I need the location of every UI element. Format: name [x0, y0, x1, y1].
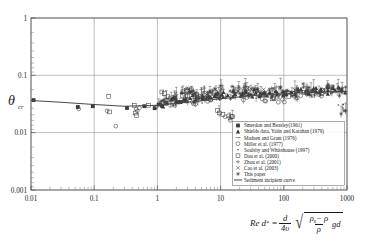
x-axis-tick-labels: 0.01 0.1 1 10 100 1000: [25, 195, 355, 203]
figure-container: 1 0.1 0.01 0.001 0.01 0.1 1 10 100 1000 …: [0, 0, 372, 244]
formula-fraction: d 4υ: [279, 214, 291, 233]
formula-re: Re: [250, 218, 260, 228]
y-axis-label-subscript: cr: [18, 103, 24, 110]
x-tick-label: 0.1: [90, 195, 99, 203]
legend-entry[interactable]: Sediment incipient curve: [234, 177, 296, 183]
y-tick-label: 0.01: [14, 129, 27, 137]
formula-radical-tail: gd: [332, 219, 341, 229]
formula-density-numerator: ρs− ρ: [308, 214, 330, 224]
formula-density-denominator: ρ: [315, 224, 323, 234]
formula-radical-content: ρs− ρ ρ gd: [304, 212, 343, 234]
x-tick-label: 1000: [340, 195, 355, 203]
y-tick-label: 0.1: [18, 72, 27, 80]
formula-fraction-denominator: 4υ: [279, 223, 291, 233]
legend-marker-icon: [237, 149, 238, 150]
radical-sign-icon: √: [296, 212, 304, 234]
legend-label: Sediment incipient curve: [244, 177, 296, 183]
x-axis-formula: Re d * = d 4υ √ ρs− ρ ρ gd: [250, 206, 372, 240]
x-tick-label: 0.01: [25, 195, 38, 203]
formula-equals: =: [272, 218, 277, 228]
y-axis-label: θ cr: [8, 93, 24, 110]
formula-density-fraction: ρs− ρ ρ: [308, 214, 330, 234]
x-tick-label: 10: [217, 195, 225, 203]
y-tick-label: 1: [23, 15, 27, 23]
legend-marker-icon: [236, 124, 240, 128]
formula-fraction-numerator: d: [281, 214, 289, 223]
y-axis-label-symbol: θ: [8, 93, 15, 108]
formula-d-subscript: *: [266, 220, 269, 226]
y-tick-label: 0.001: [11, 187, 28, 195]
legend[interactable]: Smerdon and Beasley(1961)Shields data, Y…: [233, 122, 345, 186]
formula-radical: √ ρs− ρ ρ gd: [294, 212, 342, 234]
x-tick-label: 100: [278, 195, 289, 203]
legend-marker-icon: [236, 172, 240, 176]
x-tick-label: 1: [156, 195, 160, 203]
